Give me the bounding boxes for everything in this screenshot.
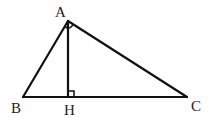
segment-ab bbox=[23, 21, 68, 97]
segment-ac bbox=[68, 21, 187, 97]
label-a: A bbox=[55, 4, 66, 20]
label-c: C bbox=[191, 98, 201, 114]
label-h: H bbox=[64, 102, 75, 118]
triangle-diagram: A B H C bbox=[0, 0, 211, 118]
label-b: B bbox=[11, 100, 21, 116]
